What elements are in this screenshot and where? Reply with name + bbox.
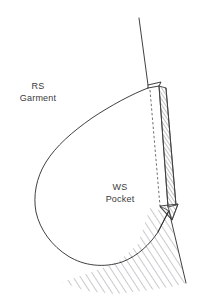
- fold-line: [150, 90, 160, 206]
- garment-label-line2: Garment: [20, 93, 57, 103]
- pocket-construction-diagram: RS Garment WS Pocket: [0, 0, 211, 304]
- pocket-label-line1: WS: [113, 182, 128, 192]
- garment-label-line1: RS: [32, 81, 45, 91]
- pocket-label: WS Pocket: [106, 182, 135, 204]
- diagram-canvas: RS Garment WS Pocket: [0, 0, 211, 304]
- pocket-label-line2: Pocket: [106, 194, 135, 204]
- garment-hatch-region: [20, 18, 186, 296]
- seam-allowance-strip: [159, 86, 176, 207]
- garment-label: RS Garment: [20, 81, 57, 103]
